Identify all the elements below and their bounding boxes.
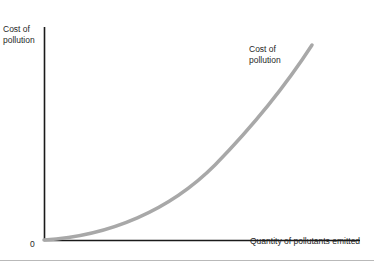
bottom-divider xyxy=(0,260,374,261)
chart-figure: Cost of pollution Quantity of pollutants… xyxy=(0,0,377,266)
cost-of-pollution-curve xyxy=(44,45,312,240)
origin-label: 0 xyxy=(30,239,35,250)
axis-lines xyxy=(44,27,360,241)
y-axis-label: Cost of pollution xyxy=(3,24,35,46)
chart-plot-area xyxy=(0,0,377,266)
x-axis-label: Quantity of pollutants emitted xyxy=(250,236,360,247)
curve-annotation-label: Cost of pollution xyxy=(249,44,281,66)
